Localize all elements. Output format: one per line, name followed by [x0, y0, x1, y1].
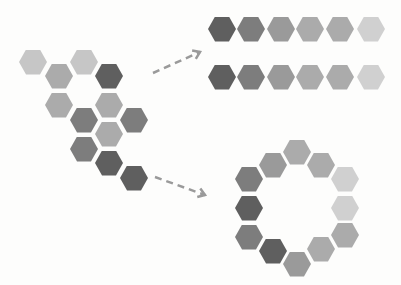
dashed-arrows: [0, 0, 401, 285]
dashed-arrow-line: [153, 52, 200, 73]
dashed-arrow-line: [155, 177, 205, 195]
arrowhead-icon: [192, 51, 200, 59]
